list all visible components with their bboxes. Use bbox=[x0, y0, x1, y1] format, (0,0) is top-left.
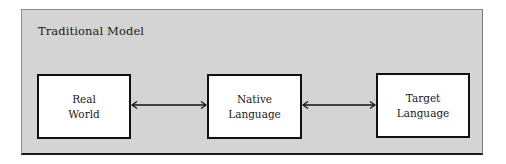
node-real-world: Real World bbox=[37, 74, 131, 139]
node-native-language: Native Language bbox=[207, 74, 302, 139]
node-label-line2: Language bbox=[397, 106, 450, 121]
node-label-line1: Target bbox=[397, 91, 450, 106]
node-target-language: Target Language bbox=[376, 73, 470, 138]
bidirectional-arrow-icon bbox=[131, 100, 207, 110]
node-label-line2: World bbox=[68, 107, 100, 122]
node-label-line2: Language bbox=[228, 107, 281, 122]
node-label-line1: Native bbox=[228, 92, 281, 107]
bidirectional-arrow-icon bbox=[302, 100, 376, 110]
node-label-line1: Real bbox=[68, 92, 100, 107]
diagram-title: Traditional Model bbox=[38, 24, 144, 38]
